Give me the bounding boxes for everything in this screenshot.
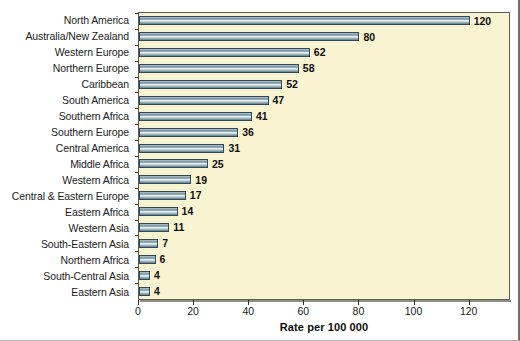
bar: [139, 191, 186, 200]
x-axis-tick-label: 60: [297, 305, 309, 317]
y-axis-tick: [135, 140, 139, 141]
bar-chart-figure: North AmericaAustralia/New ZealandWester…: [0, 0, 520, 341]
x-axis-tick-label: 100: [405, 305, 423, 317]
bar-value-label: 80: [363, 32, 375, 43]
category-label: Western Africa: [0, 172, 134, 188]
category-label: Southern Africa: [0, 108, 134, 124]
y-axis-tick: [135, 29, 139, 30]
y-axis-tick: [135, 156, 139, 157]
y-axis-tick: [135, 251, 139, 252]
y-axis-tick: [135, 77, 139, 78]
category-label: Caribbean: [0, 76, 134, 92]
bar-row: 58: [139, 61, 509, 77]
y-axis-tick: [135, 124, 139, 125]
category-label: Middle Africa: [0, 156, 134, 172]
y-axis-tick: [135, 204, 139, 205]
category-label: Northern Europe: [0, 60, 134, 76]
y-axis-tick: [135, 92, 139, 93]
bar: [139, 239, 158, 248]
bar: [139, 287, 150, 296]
bar: [139, 271, 150, 280]
bar-value-label: 17: [190, 190, 202, 201]
bar: [139, 48, 310, 57]
bar-value-label: 41: [256, 111, 268, 122]
y-axis-tick: [135, 267, 139, 268]
y-axis-tick: [135, 235, 139, 236]
bar: [139, 223, 169, 232]
x-axis-tick-label: 40: [242, 305, 254, 317]
category-label: Western Asia: [0, 220, 134, 236]
bar-row: 41: [139, 108, 509, 124]
bar-value-label: 47: [273, 95, 285, 106]
bar-row: 4: [139, 267, 509, 283]
x-axis-title: Rate per 100 000: [138, 321, 510, 333]
category-label: North America: [0, 12, 134, 28]
y-axis-tick: [135, 283, 139, 284]
bar-value-label: 58: [303, 63, 315, 74]
bar: [139, 175, 191, 184]
bar: [139, 144, 224, 153]
bar-row: 31: [139, 140, 509, 156]
bar: [139, 96, 269, 105]
y-axis-tick: [135, 45, 139, 46]
bar: [139, 159, 208, 168]
bar: [139, 207, 178, 216]
category-label: Southern Europe: [0, 124, 134, 140]
x-axis: 020406080100120: [138, 300, 510, 318]
bar-value-label: 31: [228, 143, 240, 154]
bar-value-label: 52: [286, 79, 298, 90]
bar-row: 36: [139, 124, 509, 140]
bar: [139, 128, 238, 137]
bar-value-label: 7: [162, 238, 168, 249]
plot-area: 120806258524741363125191714117644: [138, 12, 510, 300]
category-label: South-Central Asia: [0, 268, 134, 284]
category-label: Australia/New Zealand: [0, 28, 134, 44]
category-label: South America: [0, 92, 134, 108]
bar-row: 52: [139, 77, 509, 93]
bar-row: 6: [139, 251, 509, 267]
y-axis-tick: [135, 188, 139, 189]
category-label: South-Eastern Asia: [0, 236, 134, 252]
bar-row: 62: [139, 45, 509, 61]
bar: [139, 32, 359, 41]
category-axis: North AmericaAustralia/New ZealandWester…: [0, 12, 134, 300]
bar-row: 19: [139, 172, 509, 188]
x-axis-tick-label: 0: [135, 305, 141, 317]
category-label: Eastern Africa: [0, 204, 134, 220]
category-label: Northern Africa: [0, 252, 134, 268]
bar: [139, 255, 156, 264]
category-label: Central America: [0, 140, 134, 156]
bar: [139, 16, 470, 25]
y-axis-tick: [135, 172, 139, 173]
bar-row: 25: [139, 156, 509, 172]
bar-series: 120806258524741363125191714117644: [139, 13, 509, 299]
bar-value-label: 14: [182, 206, 194, 217]
bar-value-label: 6: [160, 254, 166, 265]
category-label: Central & Eastern Europe: [0, 188, 134, 204]
bar-value-label: 36: [242, 127, 254, 138]
bar-value-label: 19: [195, 175, 207, 186]
y-axis-tick: [135, 108, 139, 109]
category-label: Western Europe: [0, 44, 134, 60]
bar-value-label: 25: [212, 159, 224, 170]
y-axis-tick: [135, 13, 139, 14]
bar-value-label: 120: [474, 16, 492, 27]
bar: [139, 80, 282, 89]
bar-value-label: 62: [314, 47, 326, 58]
category-label: Eastern Asia: [0, 284, 134, 300]
bar-row: 80: [139, 29, 509, 45]
bar: [139, 64, 299, 73]
bar-row: 14: [139, 204, 509, 220]
bar-row: 47: [139, 92, 509, 108]
x-axis-tick-label: 20: [187, 305, 199, 317]
bar-value-label: 4: [154, 270, 160, 281]
bar-value-label: 11: [173, 222, 184, 233]
y-axis-tick: [135, 220, 139, 221]
bar-row: 11: [139, 220, 509, 236]
bar-row: 7: [139, 235, 509, 251]
bar: [139, 112, 252, 121]
x-axis-tick-label: 120: [460, 305, 478, 317]
bar-row: 120: [139, 13, 509, 29]
y-axis-tick: [135, 61, 139, 62]
bar-value-label: 4: [154, 286, 160, 297]
